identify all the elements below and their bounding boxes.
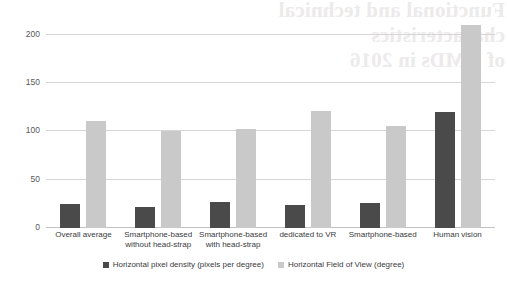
bar-group — [121, 20, 196, 228]
x-axis-category-label: Smartphone-based without head-strap — [121, 230, 196, 250]
x-axis-category-label: Human vision — [420, 230, 495, 250]
bar[interactable] — [236, 129, 256, 228]
legend-label: Horizontal pixel density (pixels per deg… — [113, 260, 264, 269]
bar-group — [196, 20, 271, 228]
plot-area: 050100150200 — [46, 20, 495, 228]
bar[interactable] — [386, 126, 406, 228]
legend-label: Horizontal Field of View (degree) — [288, 260, 404, 269]
bar[interactable] — [311, 111, 331, 228]
y-axis-tick-label: 100 — [26, 125, 40, 135]
x-axis-category-label: dedicated to VR — [270, 230, 345, 250]
x-axis-category-label: Smartphone-based with head-strap — [196, 230, 271, 250]
bar[interactable] — [360, 203, 380, 228]
bar-group — [46, 20, 121, 228]
legend-swatch-icon — [278, 262, 284, 268]
legend-item[interactable]: Horizontal pixel density (pixels per deg… — [103, 260, 264, 269]
bar[interactable] — [135, 207, 155, 228]
y-axis-tick-label: 150 — [26, 77, 40, 87]
bar[interactable] — [210, 202, 230, 228]
y-axis-tick-label: 50 — [31, 174, 40, 184]
bar[interactable] — [86, 121, 106, 228]
x-axis-category-label: Overall average — [46, 230, 121, 250]
bar-chart: 050100150200 Overall averageSmartphone-b… — [0, 0, 507, 281]
bar-group — [420, 20, 495, 228]
bar-group — [270, 20, 345, 228]
y-axis-tick-label: 0 — [35, 222, 40, 232]
chart-legend: Horizontal pixel density (pixels per deg… — [0, 260, 507, 269]
x-axis-category-label: Smartphone-based — [345, 230, 420, 250]
bar[interactable] — [161, 131, 181, 228]
bar[interactable] — [60, 204, 80, 228]
bar-series-container — [46, 20, 495, 228]
bar[interactable] — [435, 112, 455, 228]
bar[interactable] — [461, 25, 481, 228]
bar[interactable] — [285, 205, 305, 228]
x-axis-category-labels: Overall averageSmartphone-based without … — [46, 230, 495, 250]
y-axis-tick-label: 200 — [26, 29, 40, 39]
legend-item[interactable]: Horizontal Field of View (degree) — [278, 260, 404, 269]
bar-group — [345, 20, 420, 228]
legend-swatch-icon — [103, 262, 109, 268]
